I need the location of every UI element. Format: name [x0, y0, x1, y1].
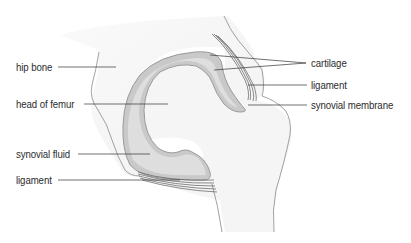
label-hip-bone: hip bone — [16, 62, 52, 73]
hip-joint-diagram — [0, 0, 411, 243]
label-synovial-fluid: synovial fluid — [16, 149, 70, 160]
label-ligament-bottom: ligament — [16, 175, 52, 186]
label-head-of-femur: head of femur — [16, 99, 74, 110]
label-ligament-top: ligament — [311, 80, 347, 91]
label-synovial-membrane: synovial membrane — [311, 100, 393, 111]
label-cartilage: cartilage — [311, 58, 347, 69]
